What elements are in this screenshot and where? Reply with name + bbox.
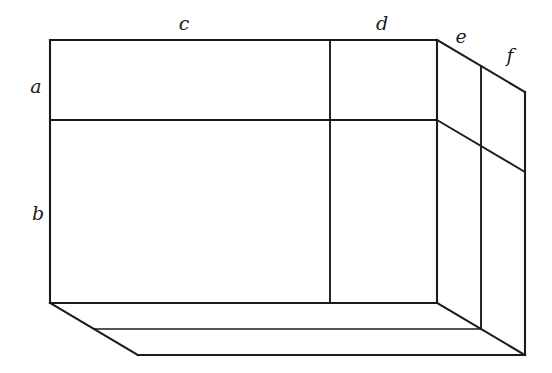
figure-container: a b c d e f xyxy=(0,0,552,373)
dimension-label-d: d xyxy=(376,12,388,34)
dimension-label-c: c xyxy=(179,12,190,34)
axonometric-diagram: a b c d e f xyxy=(0,0,552,373)
dimension-label-e: e xyxy=(455,25,466,47)
figure-background xyxy=(0,0,552,373)
dimension-label-b: b xyxy=(32,202,44,224)
dimension-label-a: a xyxy=(30,75,41,97)
